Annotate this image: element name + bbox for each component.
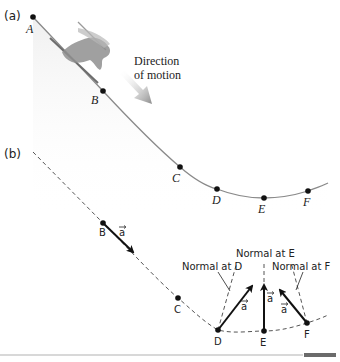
motion-diagram: (a) Direction of motion A B C D E F [0,0,340,362]
panel-a-label: (a) [4,9,21,23]
normal-d-leader [218,272,230,291]
point-f-label: F [302,195,311,209]
accel-label-b: a [119,226,126,239]
point-d [214,186,220,192]
normal-f-leader [296,272,303,290]
accel-label-d: a [241,300,248,313]
point-f [305,188,311,194]
normal-line-d [218,262,237,330]
point-f-label: F [304,329,310,340]
point-c-label: C [172,171,181,185]
accel-label-f: a [281,303,288,316]
point-a-label: A [25,22,34,36]
point-c [175,295,181,301]
point-d-label: D [214,336,222,347]
accel-arrow-b [103,223,133,252]
point-c-label: C [174,304,181,315]
bottom-bar-dark [304,353,336,357]
panel-b-label: (b) [4,147,21,161]
point-e-label: E [260,337,266,348]
normal-at-e-label: Normal at E [236,248,295,259]
bottom-bar-light [0,354,303,356]
point-e-label: E [257,202,266,216]
point-b [100,88,106,94]
bottom-bar [0,353,336,357]
point-b-label: B [91,93,99,107]
normal-at-d-label: Normal at D [182,261,243,272]
accel-label-e: a [267,292,274,305]
point-b-label: B [99,227,106,238]
normal-at-f-label: Normal at F [272,261,331,272]
point-a [30,14,36,20]
point-e [261,195,267,201]
point-c [177,164,183,170]
point-d-label: D [211,193,221,207]
direction-label-line2: of motion [134,68,181,82]
direction-label-line1: Direction [134,54,179,68]
panel-a: (a) Direction of motion A B C D E F [4,9,328,216]
